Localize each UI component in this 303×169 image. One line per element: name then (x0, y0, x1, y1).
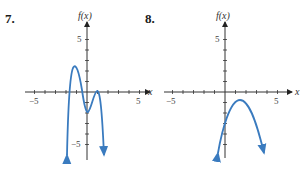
x-axis-8: −5 5 x x (147, 86, 300, 106)
y-axis-8: f(x) 5 (215, 10, 231, 158)
x-tick-neg5-8: −5 (166, 96, 176, 106)
charts-canvas: −5 5 f(x) 5 −5 (0, 0, 303, 169)
y-axis-label-8: f(x) (216, 10, 231, 22)
y-axis-label-7: f(x) (78, 10, 93, 22)
chart-7: −5 5 f(x) 5 −5 (25, 10, 150, 160)
y-tick-neg5-7: −5 (71, 139, 81, 149)
y-tick-5-8: 5 (215, 34, 220, 44)
x-tick-5-8: 5 (274, 96, 279, 106)
chart-8: −5 5 x x f(x) 5 (147, 10, 300, 158)
x-tick-5-7: 5 (136, 96, 141, 106)
y-tick-5-7: 5 (77, 34, 82, 44)
x-axis-label-8: x (294, 86, 300, 97)
x-axis-label-7: x (147, 86, 153, 97)
x-tick-neg5-7: −5 (29, 96, 39, 106)
